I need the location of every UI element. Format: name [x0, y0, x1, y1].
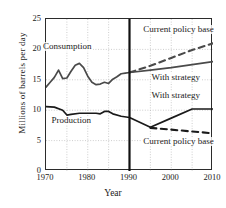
x-tick-label: 2000	[155, 173, 185, 182]
x-tick-label: 1980	[72, 173, 102, 182]
annotation-upper-current-policy-base: Current policy base	[142, 25, 214, 34]
x-tick-label: 2010	[197, 173, 226, 182]
y-tick-label: 10	[19, 105, 41, 114]
x-axis-label: Year	[0, 188, 226, 198]
chart-figure: Millions of barrels per day 0510152025 1…	[0, 0, 226, 208]
annotation-lower-current-policy-base: Current policy base	[142, 137, 214, 146]
y-tick-label: 5	[19, 136, 41, 145]
y-tick-label: 15	[19, 75, 41, 84]
annotation-upper-with-strategy: With strategy	[151, 73, 201, 82]
x-tick-label: 1970	[30, 173, 60, 182]
series-line	[150, 128, 213, 133]
annotation-production: Production	[50, 116, 92, 125]
annotation-consumption: Consumption	[42, 42, 93, 51]
annotation-lower-with-strategy: With strategy	[151, 91, 201, 100]
x-tick-label: 1990	[114, 173, 144, 182]
y-tick-label: 25	[19, 14, 41, 23]
y-tick-label: 20	[19, 44, 41, 53]
series-line	[130, 109, 214, 127]
series-line	[46, 63, 130, 87]
